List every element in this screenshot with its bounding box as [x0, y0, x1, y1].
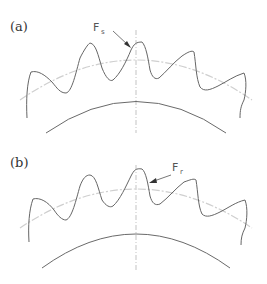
panel-a-label: (a)	[10, 19, 28, 34]
panel-a: (a) F s	[10, 19, 252, 133]
force-fr-label: F	[172, 161, 178, 174]
gear-diagram: (a) F s (b) F r	[0, 0, 267, 284]
panel-b-label: (b)	[10, 155, 28, 170]
arrow-fr-head	[149, 178, 157, 183]
force-fr-subscript: r	[180, 168, 183, 176]
force-fs-label: F	[93, 21, 99, 34]
panel-b: (b) F r	[10, 155, 252, 272]
force-fs-subscript: s	[101, 28, 105, 36]
arrow-fr-leader	[154, 175, 171, 181]
